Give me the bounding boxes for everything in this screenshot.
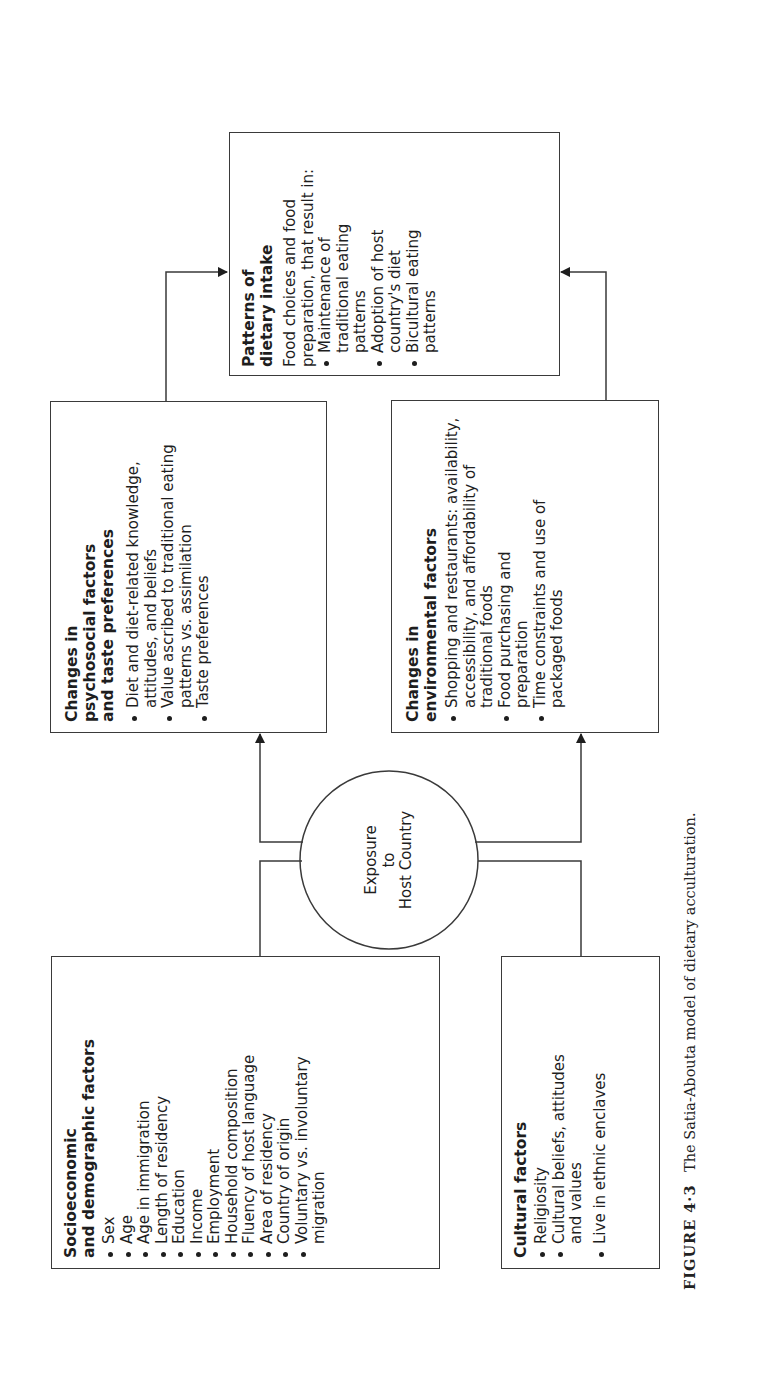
list-item: Adoption of host country's diet xyxy=(370,167,405,367)
socioeconomic-title-line-2: and demographic factors xyxy=(80,967,98,1258)
circle-line-3: Host Country xyxy=(398,785,416,935)
patterns-intro: Food choices and food preparation, that … xyxy=(282,152,317,367)
list-item: Fluency of host language xyxy=(241,1023,259,1258)
environmental-factors-box: Changes in environmental factors Shoppin… xyxy=(391,400,659,733)
list-item: Time constraints and use of packaged foo… xyxy=(532,478,567,722)
list-item: Live in ethnic enclaves xyxy=(592,1028,610,1258)
list-item: Shopping and restaurants: availability, … xyxy=(444,407,497,722)
socioeconomic-title-line-1: Socioeconomic xyxy=(62,967,80,1258)
list-item: Taste preferences xyxy=(195,422,213,722)
cultural-factors-box: Cultural factors Religiosity Cultural be… xyxy=(501,956,660,1269)
figure-caption-text: The Satia-Abouta model of dietary accult… xyxy=(682,812,698,1171)
exposure-to-host-country-label: Exposure to Host Country xyxy=(363,785,416,935)
list-item: Food purchasing and preparation xyxy=(497,518,532,722)
list-item: Age xyxy=(119,1023,137,1258)
socioeconomic-list: Sex Age Age in immigration Length of res… xyxy=(101,1023,329,1258)
list-item: Religiosity xyxy=(533,1028,551,1258)
socioeconomic-demographic-factors-box: Socioeconomic and demographic factors Se… xyxy=(51,956,440,1269)
psychosocial-factors-box: Changes in psychosocial factors and tast… xyxy=(50,401,327,733)
list-item: Age in immigration xyxy=(136,1023,154,1258)
list-item: Diet and diet-related knowledge, attitud… xyxy=(125,422,160,722)
list-item: Cultural beliefs, attitudes and values xyxy=(551,1028,586,1258)
list-item: Employment xyxy=(206,1023,224,1258)
patterns-title: Patterns of dietary intake xyxy=(240,237,276,367)
patterns-of-dietary-intake-box: Patterns of dietary intake Food choices … xyxy=(229,132,560,376)
list-item: Area of residency xyxy=(259,1023,277,1258)
circle-line-2: to xyxy=(380,785,398,935)
cultural-title: Cultural factors xyxy=(512,967,530,1258)
list-item: Voluntary vs. involuntary migration xyxy=(294,1044,329,1258)
circle-line-1: Exposure xyxy=(363,785,381,935)
list-item: Bicultural eating patterns xyxy=(405,167,440,367)
figure-label: FIGURE 4·3 xyxy=(681,1185,698,1290)
list-item: Household composition xyxy=(224,1023,242,1258)
psychosocial-title: Changes in psychosocial factors and tast… xyxy=(63,522,117,722)
list-item: Value ascribed to traditional eating pat… xyxy=(160,422,195,722)
psychosocial-list: Diet and diet-related knowledge, attitud… xyxy=(125,422,213,722)
cultural-list: Religiosity Cultural beliefs, attitudes … xyxy=(533,1028,609,1258)
list-item: Income xyxy=(189,1023,207,1258)
list-item: Maintenance of traditional eating patter… xyxy=(317,167,370,367)
environmental-title: Changes in environmental factors xyxy=(404,522,440,722)
list-item: Country of origin xyxy=(276,1023,294,1258)
environmental-list: Shopping and restaurants: availability, … xyxy=(444,407,567,722)
list-item: Length of residency xyxy=(154,1023,172,1258)
figure-caption: FIGURE 4·3 The Satia-Abouta model of die… xyxy=(681,690,698,1290)
list-item: Sex xyxy=(101,1023,119,1258)
list-item: Education xyxy=(171,1023,189,1258)
patterns-list: Maintenance of traditional eating patter… xyxy=(317,167,440,367)
